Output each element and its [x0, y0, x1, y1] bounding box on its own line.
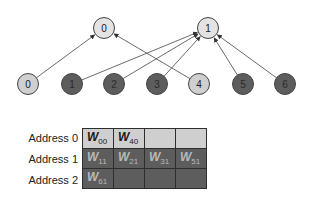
- node-label: 3: [154, 79, 160, 90]
- node-in-4: 4: [189, 74, 210, 95]
- edges: [36, 32, 276, 80]
- memory-row-1: W11W21W31W51: [83, 149, 207, 169]
- address-label-1: Address 1: [0, 149, 78, 170]
- node-label: 2: [111, 79, 117, 90]
- memory-table: W00W40W11W21W31W51W61: [82, 128, 207, 189]
- node-label: 4: [196, 79, 202, 90]
- edge-in-0-to-out-0: [36, 35, 94, 78]
- weight-cell: [145, 169, 176, 189]
- edge-in-5-to-out-1: [214, 38, 237, 75]
- node-in-1: 1: [62, 74, 83, 95]
- node-out-0: 0: [94, 18, 115, 39]
- nodes: 010123456: [18, 18, 296, 95]
- node-label: 1: [205, 23, 211, 34]
- weight-cell: W40: [114, 129, 145, 149]
- edge-in-2-to-out-1: [123, 34, 198, 79]
- weight-cell: W61: [83, 169, 114, 189]
- memory-row-0: W00W40: [83, 129, 207, 149]
- address-label-0: Address 0: [0, 128, 78, 149]
- node-in-2: 2: [104, 74, 125, 95]
- edge-in-3-to-out-1: [164, 37, 200, 77]
- memory-row-2: W61: [83, 169, 207, 189]
- node-in-0: 0: [18, 74, 39, 95]
- node-label: 0: [101, 23, 107, 34]
- node-label: 6: [282, 79, 288, 90]
- weight-cell: W11: [83, 149, 114, 169]
- node-label: 1: [69, 79, 75, 90]
- node-label: 0: [25, 79, 31, 90]
- node-out-1: 1: [198, 18, 219, 39]
- weight-cell: [145, 129, 176, 149]
- node-label: 5: [240, 79, 246, 90]
- weight-cell: [176, 129, 207, 149]
- node-in-6: 6: [275, 74, 296, 95]
- weight-cell: W31: [145, 149, 176, 169]
- weight-cell: W00: [83, 129, 114, 149]
- weight-cell: [114, 169, 145, 189]
- node-in-3: 3: [147, 74, 168, 95]
- weight-cell: [176, 169, 207, 189]
- network-graph: 010123456: [0, 0, 313, 120]
- weight-cell: W51: [176, 149, 207, 169]
- address-label-2: Address 2: [0, 170, 78, 191]
- weight-cell: W21: [114, 149, 145, 169]
- node-in-5: 5: [233, 74, 254, 95]
